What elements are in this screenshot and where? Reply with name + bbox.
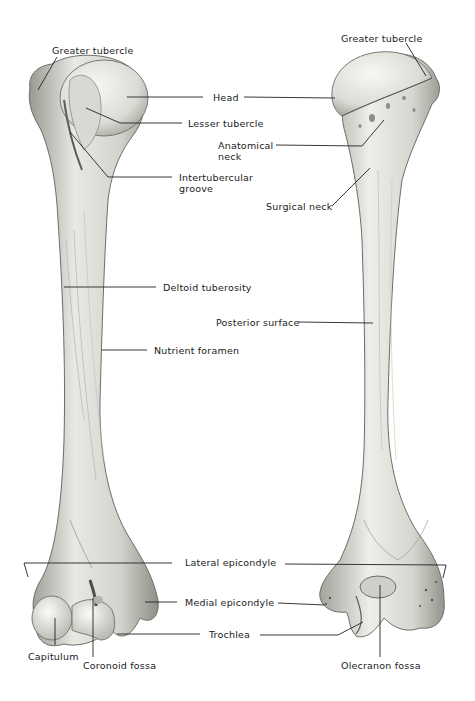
label-nutrient-foramen: Nutrient foramen: [154, 345, 239, 356]
leader-head-right: [244, 97, 335, 98]
leader-posterior-surface: [298, 322, 373, 323]
label-coronoid-fossa: Coronoid fossa: [83, 660, 156, 671]
leader-medial-epicondyle-right: [278, 603, 325, 605]
label-posterior-surface: Posterior surface: [216, 317, 300, 328]
label-trochlea: Trochlea: [209, 629, 250, 640]
label-deltoid-tuberosity: Deltoid tuberosity: [163, 282, 252, 293]
label-lesser-tubercle: Lesser tubercle: [188, 118, 264, 129]
label-olecranon-fossa: Olecranon fossa: [341, 660, 421, 671]
humerus-diagram: Greater tubercle Head Lesser tubercle An…: [0, 0, 475, 701]
label-greater-tubercle-right: Greater tubercle: [341, 33, 422, 44]
label-medial-epicondyle: Medial epicondyle: [185, 597, 274, 608]
label-surgical-neck: Surgical neck: [266, 201, 332, 212]
label-lateral-epicondyle: Lateral epicondyle: [185, 557, 276, 568]
label-anatomical-neck: Anatomical neck: [218, 140, 273, 162]
label-head: Head: [213, 92, 239, 103]
posterior-humerus: [320, 52, 444, 637]
label-greater-tubercle-left: Greater tubercle: [52, 45, 133, 56]
label-intertubercular-groove: Intertubercular groove: [179, 172, 253, 194]
label-capitulum: Capitulum: [28, 651, 79, 662]
anterior-humerus: [29, 55, 158, 645]
